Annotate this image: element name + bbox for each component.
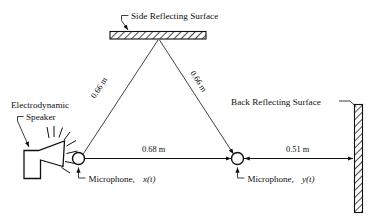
microphone-y [232,153,244,165]
microphone-y-signal: y(t) [301,174,315,184]
acoustic-setup-diagram: Side Reflecting Surface Back Reflecting … [0,0,372,218]
back-surface-leader [339,101,357,107]
microphone-x-signal: x(t) [142,174,156,184]
microphone-x-label: Microphone, x(t) [89,174,156,184]
back-reflecting-surface-label: Back Reflecting Surface [231,97,321,107]
back-gap-dimension-label: 0.51 m [286,145,310,154]
reflection-path-triangle [83,40,234,155]
microphone-y-label-text: Microphone, [248,174,294,184]
microphone-x [73,153,85,165]
microphone-y-leader [238,168,245,179]
back-reflecting-surface-panel [355,105,363,213]
electrodynamic-speaker [24,141,65,179]
microphone-x-leader [79,168,86,179]
microphone-x-label-text: Microphone, [89,174,135,184]
left-diagonal-dimension: 0.66 m [89,75,109,100]
baseline-dimension-label: 0.68 m [142,145,166,154]
side-reflecting-surface-panel [110,32,206,40]
side-surface-leader [122,16,129,31]
right-diagonal-dimension: 0.66 m [188,69,208,94]
microphone-y-label: Microphone, y(t) [248,174,315,184]
speaker-label-line1: Electrodynamic [11,100,69,110]
speaker-label-line2: Speaker [26,112,56,122]
side-reflecting-surface-label: Side Reflecting Surface [131,11,218,21]
